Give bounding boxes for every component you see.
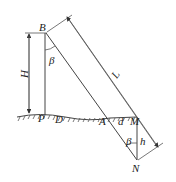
label-B: B (39, 21, 46, 33)
angle-arc-top (45, 46, 55, 50)
extension-line-B (47, 15, 72, 32)
diagram-canvas: B β H L P D A d M β h N (0, 0, 176, 182)
label-M: M (129, 115, 140, 127)
label-A: A (98, 115, 106, 127)
label-D: D (54, 113, 63, 125)
label-beta-bottom: β (125, 135, 132, 147)
label-N: N (131, 162, 140, 174)
label-H: H (18, 69, 30, 79)
label-h: h (140, 135, 146, 147)
label-d: d (118, 115, 124, 127)
label-P: P (37, 112, 45, 124)
label-beta-top: β (48, 54, 55, 66)
